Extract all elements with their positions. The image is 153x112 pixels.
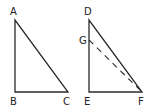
triangle-abc-outline: [15, 20, 68, 92]
vertex-label-d: D: [84, 6, 92, 17]
triangle-def-outline: [89, 20, 142, 92]
vertex-label-e: E: [84, 96, 90, 107]
vertex-label-a: A: [10, 6, 17, 17]
dashed-segment-gf: [89, 40, 142, 92]
triangle-def: D G E F: [79, 6, 144, 107]
vertex-label-b: B: [10, 96, 17, 107]
vertex-label-f: F: [138, 96, 144, 107]
triangle-abc: A B C: [10, 6, 70, 107]
vertex-label-c: C: [63, 96, 70, 107]
triangle-diagram: A B C D G E F: [0, 0, 153, 112]
point-label-g: G: [79, 35, 87, 46]
